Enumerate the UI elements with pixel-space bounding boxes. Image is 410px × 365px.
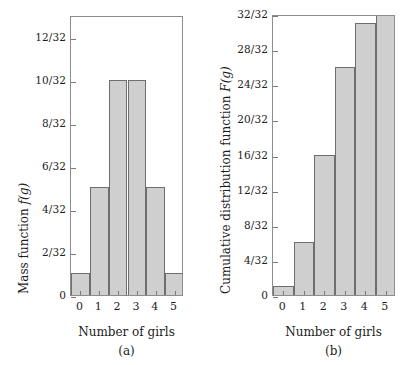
x-tick-label: 0 xyxy=(69,301,89,313)
plot-area-b xyxy=(272,15,395,296)
panel-caption-b: (b) xyxy=(252,345,410,358)
bars-container-a xyxy=(71,17,182,295)
y-tick-mark xyxy=(71,125,76,126)
x-tick-mark xyxy=(386,291,387,295)
x-tick-mark xyxy=(304,291,305,295)
x-tick-mark xyxy=(137,291,138,295)
x-tick-label: 3 xyxy=(126,301,146,313)
y-tick-mark xyxy=(273,157,278,158)
x-axis-title-a: Number of girls xyxy=(50,326,203,339)
bar xyxy=(90,187,109,295)
y-tick-mark xyxy=(273,262,278,263)
x-tick-label: 4 xyxy=(354,301,374,313)
y-tick-label: 32/32 xyxy=(224,9,268,20)
y-tick-label: 10/32 xyxy=(22,75,66,86)
x-tick-mark xyxy=(324,291,325,295)
panel-caption-a: (a) xyxy=(50,345,203,358)
bar xyxy=(109,80,128,295)
x-tick-label: 3 xyxy=(334,301,354,313)
y-axis-title-a: Mass function f(g) xyxy=(18,183,31,294)
y-tick-mark xyxy=(71,254,76,255)
panel-a-mass-function: 02/324/326/328/3210/3212/32 012345 Mass … xyxy=(0,0,205,365)
x-tick-mark xyxy=(365,291,366,295)
x-tick-mark xyxy=(99,291,100,295)
bar xyxy=(355,23,376,295)
y-tick-mark xyxy=(273,121,278,122)
y-tick-mark xyxy=(273,86,278,87)
bar xyxy=(335,67,356,295)
y-tick-mark xyxy=(273,192,278,193)
x-tick-mark xyxy=(156,291,157,295)
bar xyxy=(294,242,315,295)
y-tick-label: 28/32 xyxy=(224,44,268,55)
y-tick-mark xyxy=(71,82,76,83)
two-panel-distribution-figure: 02/324/326/328/3210/3212/32 012345 Mass … xyxy=(0,0,410,365)
x-tick-label: 4 xyxy=(145,301,165,313)
x-tick-label: 5 xyxy=(375,301,395,313)
y-tick-label: 6/32 xyxy=(22,161,66,172)
y-axis-title-b: Cumulative distribution function F(g) xyxy=(220,66,233,294)
bars-container-b xyxy=(273,16,394,295)
x-tick-label: 2 xyxy=(107,301,127,313)
y-tick-mark xyxy=(273,16,278,17)
y-tick-mark xyxy=(71,297,76,298)
y-tick-mark xyxy=(273,227,278,228)
x-tick-label: 1 xyxy=(88,301,108,313)
x-tick-mark xyxy=(118,291,119,295)
bar xyxy=(128,80,147,295)
y-tick-mark xyxy=(273,51,278,52)
x-tick-mark xyxy=(80,291,81,295)
bar xyxy=(376,16,395,295)
y-tick-label: 12/32 xyxy=(22,32,66,43)
bar xyxy=(165,273,182,295)
y-tick-label: 8/32 xyxy=(22,118,66,129)
x-tick-mark xyxy=(345,291,346,295)
y-tick-mark xyxy=(71,211,76,212)
bar xyxy=(146,187,165,295)
y-tick-mark xyxy=(71,168,76,169)
x-axis-title-b: Number of girls xyxy=(252,326,410,339)
plot-area-a xyxy=(70,16,183,296)
x-tick-label: 5 xyxy=(164,301,184,313)
x-tick-mark xyxy=(283,291,284,295)
x-tick-mark xyxy=(175,291,176,295)
bar xyxy=(314,155,335,296)
x-tick-label: 1 xyxy=(293,301,313,313)
y-tick-mark xyxy=(273,297,278,298)
x-tick-label: 2 xyxy=(313,301,333,313)
panel-b-cumulative-distribution: 04/328/3212/3216/3220/3224/3228/3232/32 … xyxy=(205,0,410,365)
y-tick-mark xyxy=(71,39,76,40)
x-tick-label: 0 xyxy=(272,301,292,313)
